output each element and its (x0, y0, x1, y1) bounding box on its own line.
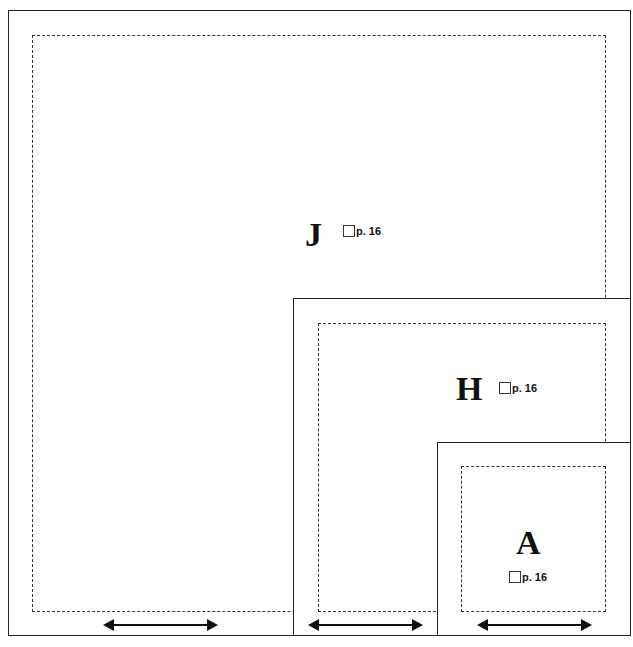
panel-h-width-arrow-icon (308, 619, 423, 631)
panel-h-letter: H (456, 372, 482, 406)
page-ref-label: p. 16 (522, 571, 547, 583)
panel-a-letter: A (516, 526, 541, 560)
page-ref-label: p. 16 (512, 382, 537, 394)
checkbox-icon[interactable] (499, 382, 511, 394)
panel-j-page-ref[interactable]: p. 16 (343, 225, 381, 237)
page-ref-label: p. 16 (356, 225, 381, 237)
panel-a-page-ref[interactable]: p. 16 (509, 571, 547, 583)
checkbox-icon[interactable] (343, 225, 355, 237)
checkbox-icon[interactable] (509, 571, 521, 583)
panel-j-width-arrow-icon (103, 619, 218, 631)
panel-a-width-arrow-icon (477, 619, 592, 631)
panel-h-page-ref[interactable]: p. 16 (499, 382, 537, 394)
panel-j-letter: J (305, 218, 322, 252)
